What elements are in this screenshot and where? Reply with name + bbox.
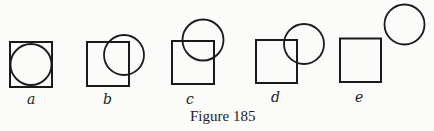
label-a: a [27, 91, 35, 107]
square-b [87, 42, 129, 86]
label-e: e [355, 89, 363, 105]
figure-caption: Figure 185 [190, 108, 255, 124]
label-c: c [186, 91, 194, 107]
square-d [256, 40, 297, 83]
label-d: d [271, 89, 280, 105]
panel-d: d [256, 24, 324, 105]
circle-e [385, 5, 425, 45]
panel-b: b [87, 35, 144, 107]
panel-a: a [10, 42, 52, 107]
figure-185-diagram: a b c d e Figure 185 [0, 0, 434, 131]
circle-d [284, 24, 324, 64]
panel-e: e [340, 5, 425, 106]
square-c [172, 41, 214, 84]
square-a [10, 42, 52, 87]
label-b: b [103, 91, 112, 107]
panel-c: c [172, 20, 224, 108]
circle-a [11, 44, 52, 85]
square-e [340, 39, 381, 83]
